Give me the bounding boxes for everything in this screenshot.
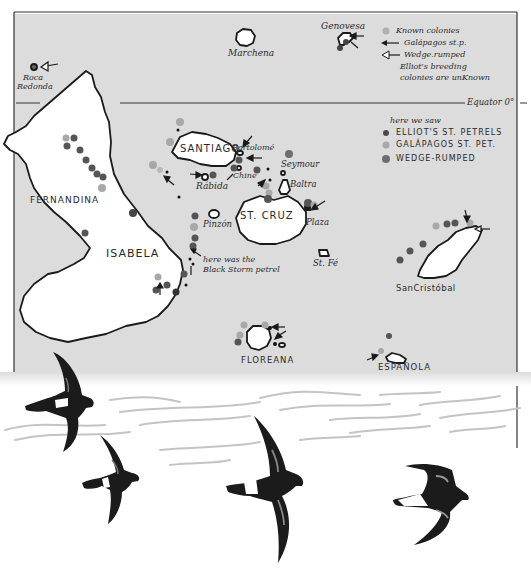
label-genovesa: Genovesa [321, 22, 365, 31]
bird-galapagos [226, 416, 303, 563]
legend-wedge-rumped: Wedge.rumped [404, 51, 465, 59]
label-redonda: Redonda [17, 83, 53, 91]
label-baltra: Baltra [290, 180, 317, 189]
galapagos-swatch [383, 142, 390, 149]
island-pinzon [209, 210, 219, 218]
label-isabela: ISABELA [106, 248, 159, 259]
label-roca: Roca [23, 74, 43, 82]
label-bartolome: Bartolomé [232, 144, 274, 152]
equator-label: Equator 0° [467, 98, 514, 107]
bird-wedge-rumped [393, 464, 469, 545]
label-santa-cruz: ST. CRUZ [240, 211, 294, 221]
label-pinzon: Pinzón [203, 220, 232, 229]
wedge-rumped-swatch [382, 155, 390, 163]
island-seymour [281, 171, 285, 175]
legend-elliots-note-1: Elliot's breeding [400, 63, 467, 71]
island-marchena [236, 29, 255, 46]
label-chinese-hat: Chine [233, 172, 257, 180]
island-chinese-hat [237, 166, 241, 170]
annotation-black-storm-petrel-2: Black Storm petrel [203, 266, 280, 274]
legend-known-colonies: Known colonies [396, 27, 460, 35]
legend-seen-elliots: ELLIOT'S ST. PETRELS [396, 129, 502, 137]
legend-seen-wedge-rumped: WEDGE-RUMPED [396, 155, 476, 163]
label-fernandina: FERNANDINA [30, 196, 99, 205]
legend-seen-galapagos: GALÁPAGOS ST. PET. [396, 141, 496, 149]
annotation-black-storm-petrel-1: here was the [203, 256, 255, 264]
legend-seen-title: here we saw [390, 117, 441, 125]
island-santa-fe [319, 250, 329, 256]
known-colonies-swatch [383, 28, 390, 35]
island-roca-redonda [31, 64, 37, 70]
label-seymour: Seymour [281, 160, 319, 169]
label-espanola: ESPAÑOLA [378, 363, 431, 372]
label-plaza: Plaza [306, 218, 329, 227]
label-santa-fe: St. Fé [313, 259, 338, 268]
label-marchena: Marchena [228, 49, 274, 58]
bird-elliots-2 [82, 435, 139, 524]
island-floreana-islet [279, 343, 285, 347]
elliots-swatch [383, 130, 389, 136]
label-rabida: Rábida [196, 182, 228, 191]
legend-galapagos-sp: Galápagos st.p. [404, 39, 467, 47]
label-floreana: FLOREANA [241, 356, 294, 365]
island-floreana [247, 326, 271, 350]
label-san-cristobal: SanCristóbal [396, 284, 456, 293]
legend-elliots-note-2: colonies are unKnown [400, 74, 490, 82]
